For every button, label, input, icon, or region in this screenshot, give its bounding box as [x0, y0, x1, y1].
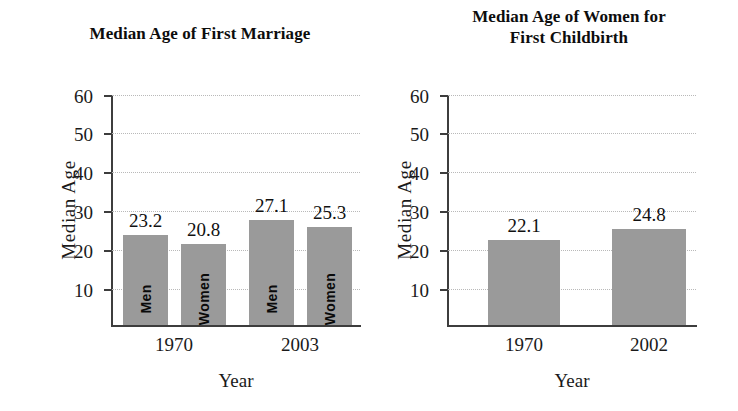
y-tick-label-20: 20: [74, 241, 93, 263]
bar-inner-label: Women: [196, 273, 212, 325]
chart-title-marriage: Median Age of First Marriage: [20, 23, 380, 44]
chart-title-line-1: Median Age of Women for: [414, 6, 724, 27]
x-axis-title-childbirth: Year: [554, 370, 589, 392]
y-tick-40: 40: [440, 172, 448, 174]
bar-inner-label: Men: [264, 284, 280, 313]
y-tick-label-10: 10: [74, 280, 93, 302]
y-tick-label-50: 50: [410, 124, 429, 146]
bar-value-label: 20.8: [187, 219, 220, 241]
y-tick-label-60: 60: [74, 86, 93, 108]
x-axis-line-marriage: [111, 325, 361, 327]
y-tick-label-50: 50: [74, 124, 93, 146]
plot-area-marriage: Median Age 60 50 40 30 20: [112, 95, 360, 325]
x-group-label-1970: 1970: [505, 334, 543, 356]
y-tick-10: 10: [440, 289, 448, 291]
x-axis-line-childbirth: [447, 325, 697, 327]
y-tick-60: 60: [104, 95, 112, 97]
gridline-40: [112, 172, 360, 173]
y-tick-label-20: 20: [410, 241, 429, 263]
chart-title-childbirth: Median Age of Women for First Childbirth: [414, 6, 724, 48]
plot-area-childbirth: Median Age 60 50 40 30 20: [448, 95, 696, 325]
y-tick-30: 30: [104, 211, 112, 213]
y-tick-30: 30: [440, 211, 448, 213]
gridline-60: [448, 95, 696, 96]
x-group-label-2003: 2003: [281, 334, 319, 356]
y-tick-50: 50: [104, 133, 112, 135]
chart-panel-marriage: Median Age of First Marriage Median Age …: [0, 0, 400, 411]
x-group-label-2002: 2002: [630, 334, 668, 356]
bar-value-label: 27.1: [255, 195, 288, 217]
gridline-50: [112, 133, 360, 134]
figure-two-bar-charts: Median Age of First Marriage Median Age …: [0, 0, 738, 411]
bar-inner-label: Men: [138, 284, 154, 313]
gridline-50: [448, 133, 696, 134]
y-tick-50: 50: [440, 133, 448, 135]
chart-title-line-1: Median Age of First Marriage: [20, 23, 380, 44]
bar-value-label: 22.1: [507, 215, 540, 237]
bar-1970-men[interactable]: 23.2 Men: [123, 235, 168, 325]
bar-2003-women[interactable]: 25.3 Women: [307, 227, 352, 325]
bar-value-label: 23.2: [129, 210, 162, 232]
gridline-40: [448, 172, 696, 173]
y-tick-20: 20: [104, 250, 112, 252]
y-tick-label-30: 30: [74, 202, 93, 224]
y-tick-label-40: 40: [410, 163, 429, 185]
bar-1970-childbirth[interactable]: 22.1: [488, 240, 560, 325]
bar-2003-men[interactable]: 27.1 Men: [249, 220, 294, 325]
y-tick-60: 60: [440, 95, 448, 97]
bar-2002-childbirth[interactable]: 24.8: [612, 229, 686, 325]
chart-panel-childbirth: Median Age of Women for First Childbirth…: [400, 0, 738, 411]
bar-value-label: 25.3: [313, 202, 346, 224]
y-tick-label-30: 30: [410, 202, 429, 224]
bar-value-label: 24.8: [632, 204, 665, 226]
y-tick-20: 20: [440, 250, 448, 252]
x-axis-title-marriage: Year: [218, 370, 253, 392]
gridline-60: [112, 95, 360, 96]
x-group-label-1970: 1970: [155, 334, 193, 356]
y-tick-10: 10: [104, 289, 112, 291]
bar-inner-label: Women: [322, 273, 338, 325]
y-tick-label-10: 10: [410, 280, 429, 302]
y-tick-label-40: 40: [74, 163, 93, 185]
y-tick-40: 40: [104, 172, 112, 174]
bar-1970-women[interactable]: 20.8 Women: [181, 244, 226, 325]
y-tick-label-60: 60: [410, 86, 429, 108]
chart-title-line-2: First Childbirth: [414, 27, 724, 48]
